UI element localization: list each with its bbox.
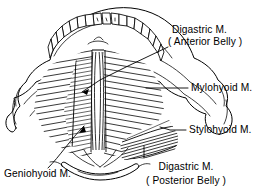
- anatomy-illustration: Digastric M. ( Anterior Belly ) Mylohyoi…: [0, 0, 260, 193]
- label-stylohyoid: Stylohyoid M.: [189, 124, 251, 135]
- label-mylohyoid: Mylohyoid M.: [191, 82, 252, 93]
- label-mylohyoid-line1: Mylohyoid M.: [191, 82, 252, 93]
- label-digastric-anterior-line1: Digastric M.: [172, 24, 227, 35]
- label-digastric-anterior-line2: ( Anterior Belly ): [168, 36, 242, 47]
- anatomy-figure: Digastric M. ( Anterior Belly ) Mylohyoi…: [0, 0, 260, 193]
- label-geniohyoid-line1: Geniohyoid M.: [4, 168, 71, 179]
- geniohyoid-muscle: [90, 48, 106, 152]
- label-digastric-posterior: Digastric M. ( Posterior Belly ): [146, 161, 226, 186]
- label-geniohyoid: Geniohyoid M.: [4, 168, 71, 179]
- label-digastric-posterior-line1: Digastric M.: [159, 161, 214, 172]
- label-digastric-posterior-line2: ( Posterior Belly ): [146, 175, 226, 186]
- label-stylohyoid-line1: Stylohyoid M.: [189, 124, 251, 135]
- label-digastric-anterior: Digastric M. ( Anterior Belly ): [168, 24, 242, 47]
